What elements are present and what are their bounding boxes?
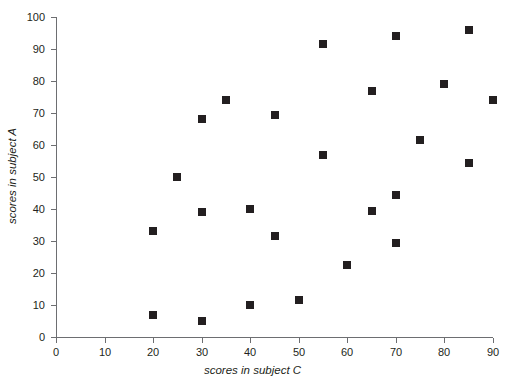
scatter-point	[489, 96, 497, 104]
y-axis-title: scores in subject A	[6, 116, 18, 236]
scatter-point	[465, 26, 473, 34]
scatter-point	[368, 207, 376, 215]
x-tick-mark	[250, 338, 251, 343]
scatter-point	[198, 208, 206, 216]
x-tick-label: 10	[90, 347, 120, 358]
x-axis-title: scores in subject C	[0, 364, 505, 376]
y-tick-label: 100	[19, 12, 45, 23]
x-tick-label: 70	[381, 347, 411, 358]
scatter-point	[222, 96, 230, 104]
x-tick-mark	[299, 338, 300, 343]
x-tick-label: 80	[429, 347, 459, 358]
x-tick-label: 0	[41, 347, 71, 358]
scatter-point	[440, 80, 448, 88]
x-tick-label: 20	[138, 347, 168, 358]
scatter-point	[319, 151, 327, 159]
scatter-point	[368, 87, 376, 95]
y-tick-label: 30	[19, 236, 45, 247]
scatter-point	[246, 301, 254, 309]
x-tick-mark	[202, 338, 203, 343]
scatter-point	[271, 232, 279, 240]
y-tick-mark	[51, 145, 56, 146]
y-tick-mark	[51, 273, 56, 274]
x-tick-mark	[396, 338, 397, 343]
scatter-point	[246, 205, 254, 213]
y-axis-line	[56, 17, 57, 338]
y-tick-mark	[51, 305, 56, 306]
y-tick-label: 70	[19, 108, 45, 119]
y-tick-label: 40	[19, 204, 45, 215]
scatter-point	[343, 261, 351, 269]
scatter-plot: 0102030405060708090100 01020304050607080…	[0, 0, 505, 380]
scatter-point	[392, 191, 400, 199]
plot-area: 0102030405060708090100 01020304050607080…	[0, 0, 505, 380]
scatter-point	[173, 173, 181, 181]
x-tick-mark	[444, 338, 445, 343]
scatter-point	[392, 239, 400, 247]
x-tick-mark	[153, 338, 154, 343]
y-tick-mark	[51, 241, 56, 242]
y-tick-mark	[51, 49, 56, 50]
y-tick-mark	[51, 113, 56, 114]
y-tick-label: 0	[19, 332, 45, 343]
scatter-point	[198, 317, 206, 325]
y-tick-label: 80	[19, 76, 45, 87]
scatter-point	[198, 115, 206, 123]
y-tick-label: 20	[19, 268, 45, 279]
x-tick-label: 30	[187, 347, 217, 358]
x-tick-label: 90	[478, 347, 505, 358]
scatter-point	[392, 32, 400, 40]
scatter-point	[149, 227, 157, 235]
x-tick-mark	[347, 338, 348, 343]
x-tick-mark	[56, 338, 57, 343]
y-tick-label: 10	[19, 300, 45, 311]
scatter-point	[271, 111, 279, 119]
y-tick-label: 50	[19, 172, 45, 183]
scatter-point	[319, 40, 327, 48]
y-tick-label: 90	[19, 44, 45, 55]
y-tick-mark	[51, 209, 56, 210]
x-tick-mark	[105, 338, 106, 343]
scatter-point	[465, 159, 473, 167]
y-tick-mark	[51, 17, 56, 18]
x-axis-line	[56, 337, 493, 338]
x-tick-mark	[493, 338, 494, 343]
scatter-point	[149, 311, 157, 319]
y-tick-mark	[51, 81, 56, 82]
x-tick-label: 60	[332, 347, 362, 358]
scatter-point	[416, 136, 424, 144]
scatter-point	[295, 296, 303, 304]
y-tick-label: 60	[19, 140, 45, 151]
x-tick-label: 40	[235, 347, 265, 358]
x-tick-label: 50	[284, 347, 314, 358]
y-tick-mark	[51, 177, 56, 178]
